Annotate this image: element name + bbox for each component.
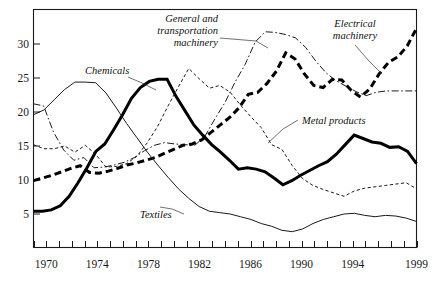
x-axis-ticks (35, 241, 418, 248)
x-tick-label-1978: 1978 (137, 258, 160, 270)
label-metal-products: Metal products (301, 115, 365, 126)
plot-frame (34, 10, 417, 248)
annotations: General and transportation machinery Ele… (85, 13, 377, 220)
x-axis-labels: 19701974197819821986199019941999 (35, 258, 428, 270)
series-line-chemicals (34, 79, 417, 211)
chart-container: 30 25 20 15 10 5 19701974197819821986199… (0, 0, 434, 286)
leader-line-general-transportation (220, 38, 268, 48)
y-tick-label-10: 10 (18, 174, 30, 186)
y-tick-label-15: 15 (18, 140, 30, 152)
x-tick-label-1970: 1970 (35, 258, 58, 270)
line-chart: 30 25 20 15 10 5 19701974197819821986199… (0, 0, 434, 286)
series-line-metal-products (34, 68, 417, 196)
series-line-general-and-transportation-machinery (34, 32, 417, 168)
label-general-transportation-line1: General and (165, 13, 219, 24)
label-chemicals: Chemicals (85, 65, 129, 76)
annotation-leader-lines (128, 38, 382, 214)
x-tick-label-1982: 1982 (188, 258, 211, 270)
series-paths (34, 28, 417, 231)
x-tick-label-1974: 1974 (86, 258, 109, 270)
label-electrical-line1: Electrical (333, 18, 375, 29)
leader-line-metal-products (268, 120, 298, 143)
label-general-transportation-line3: machinery (174, 37, 219, 48)
y-tick-label-20: 20 (18, 106, 30, 118)
y-tick-label-25: 25 (18, 72, 30, 84)
x-tick-label-1994: 1994 (341, 258, 364, 270)
x-tick-label-1990: 1990 (290, 258, 313, 270)
y-tick-label-5: 5 (23, 208, 29, 220)
x-tick-label-1986: 1986 (239, 258, 262, 270)
y-tick-label-30: 30 (18, 38, 30, 50)
y-axis-ticks (34, 44, 41, 214)
x-tick-label-1999: 1999 (405, 258, 428, 270)
label-electrical-line2: machinery (333, 30, 378, 41)
label-textiles: Textiles (140, 209, 172, 220)
y-axis-labels: 30 25 20 15 10 5 (18, 38, 30, 220)
label-general-transportation-line2: transportation (157, 25, 218, 36)
leader-line-electrical (355, 45, 382, 74)
